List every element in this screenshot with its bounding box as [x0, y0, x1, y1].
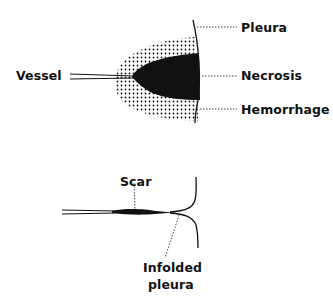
pleura-upper: [170, 177, 196, 212]
scar-label: Scar: [120, 176, 151, 189]
necrosis-label: Necrosis: [241, 70, 302, 83]
infolded-pleura-label-line2: pleura: [148, 279, 194, 292]
vessel-label: Vessel: [16, 70, 62, 83]
scar-body: [112, 209, 175, 215]
scar-vessel-line: [62, 210, 115, 211]
infolded-pleura-label-line1: Infolded: [143, 262, 202, 275]
infolded-pleura-leader: [165, 215, 179, 258]
scar-vessel-line: [62, 213, 115, 214]
pleura-label: Pleura: [241, 22, 287, 35]
hemorrhage-label: Hemorrhage: [241, 104, 330, 117]
